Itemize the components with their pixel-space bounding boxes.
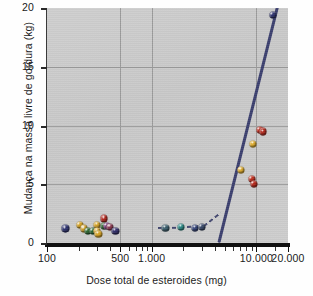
x-axis-tick [183, 247, 184, 251]
y-gridline [47, 126, 288, 127]
data-point [62, 225, 69, 232]
y-axis-tick [41, 8, 47, 10]
x-axis-tick [129, 247, 130, 251]
x-axis-tick [202, 247, 203, 251]
x-axis-tick [233, 247, 234, 251]
x-axis-tick [246, 247, 247, 251]
x-axis-tick [97, 247, 98, 251]
data-point [177, 224, 184, 231]
y-axis-tick-label: 15 [8, 60, 34, 72]
x-axis-tick-label: 100 [38, 252, 56, 264]
y-axis-tick [41, 126, 47, 128]
data-point [260, 128, 267, 135]
dashed-trend-segment [203, 212, 220, 226]
x-axis-tick [147, 247, 148, 251]
x-axis-tick [275, 247, 276, 251]
data-point [112, 227, 119, 234]
x-axis-tick-label: 10.000 [240, 252, 273, 264]
data-point [198, 224, 205, 231]
x-axis-tick-label: 20.000 [271, 252, 304, 264]
x-axis-tick [110, 247, 111, 251]
y-axis-tick-label: 5 [8, 177, 34, 189]
x-axis-line [45, 243, 290, 247]
y-axis-tick [41, 243, 47, 245]
y-axis-tick [41, 184, 47, 186]
x-axis-tick [225, 247, 226, 251]
data-point [237, 167, 244, 174]
x-axis-tick [252, 247, 253, 251]
y-axis-tick-label: 10 [8, 119, 34, 131]
x-axis-tick-label: 500 [111, 252, 129, 264]
figure-scatter-plot: Mudança na massa livre de gordura (kg) D… [0, 0, 313, 296]
x-axis-tick-label: 1.000 [138, 252, 165, 264]
data-point [95, 230, 102, 237]
x-axis-tick [79, 247, 80, 251]
data-point [100, 215, 107, 222]
x-axis-tick [215, 247, 216, 251]
y-axis-tick [41, 67, 47, 69]
y-axis-tick-label: 0 [8, 236, 34, 248]
y-axis-tick-label: 20 [8, 1, 34, 13]
x-axis-title: Dose total de esteroides (mg) [0, 274, 313, 286]
x-axis-tick [136, 247, 137, 251]
data-point [162, 224, 169, 231]
x-axis-tick [240, 247, 241, 251]
y-gridline [47, 67, 288, 68]
x-axis-tick [142, 247, 143, 251]
plot-area [47, 8, 288, 243]
